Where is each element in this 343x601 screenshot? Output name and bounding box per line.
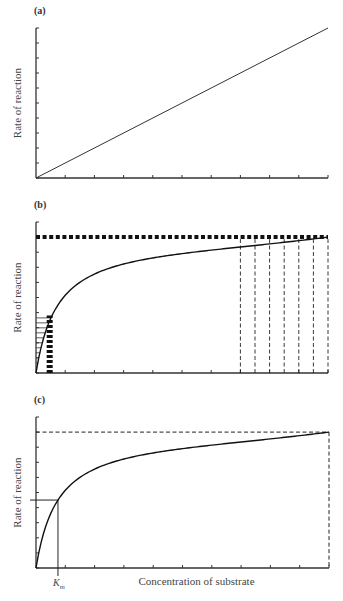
- panel-label: (c): [34, 394, 45, 406]
- rate-curve: [36, 432, 329, 568]
- km-label: Km: [52, 577, 65, 591]
- x-axis-label: Concentration of substrate: [138, 575, 254, 587]
- panel-a: (a)Rate of reaction: [11, 5, 328, 178]
- linear-rate-line: [36, 28, 328, 178]
- y-axis-label: Rate of reaction: [11, 67, 23, 138]
- panel-label: (a): [34, 5, 46, 17]
- panel-c: (c)Rate of reactionConcentration of subs…: [11, 394, 329, 591]
- panel-label: (b): [34, 199, 46, 211]
- michaelis-menten-figure: (a)Rate of reaction(b)Rate of reaction(c…: [0, 0, 343, 601]
- km-subscript: m: [60, 583, 65, 591]
- y-axis-label: Rate of reaction: [11, 262, 23, 333]
- y-axis-label: Rate of reaction: [11, 457, 23, 528]
- panel-b: (b)Rate of reaction: [11, 199, 328, 373]
